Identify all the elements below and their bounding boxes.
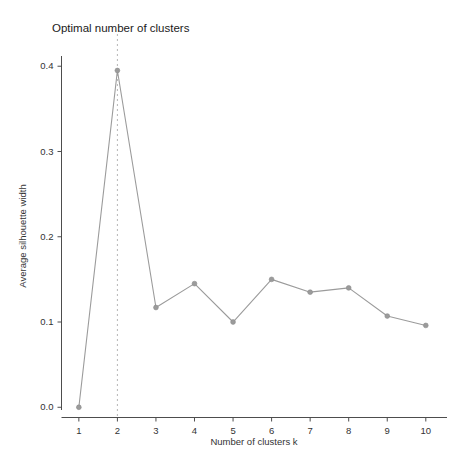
- y-tick-label: 0.2: [40, 231, 53, 242]
- x-tick-label: 7: [307, 425, 312, 436]
- x-tick-label: 4: [192, 425, 197, 436]
- silhouette-line-chart: Optimal number of clusters 0.00.10.20.30…: [0, 0, 464, 465]
- y-tick-label: 0.0: [40, 401, 53, 412]
- x-tick-label: 2: [115, 425, 120, 436]
- x-tick-label: 5: [230, 425, 235, 436]
- x-axis-label: Number of clusters k: [210, 436, 297, 447]
- data-point-marker: [231, 320, 236, 325]
- chart-root: Optimal number of clusters 0.00.10.20.30…: [0, 0, 464, 465]
- data-point-marker: [115, 68, 120, 73]
- y-tick-label: 0.4: [40, 60, 53, 71]
- y-axis-label: Average silhouette width: [17, 184, 28, 287]
- y-tick-label: 0.1: [40, 316, 53, 327]
- page-title: Optimal number of clusters: [52, 22, 190, 34]
- data-point-marker: [423, 323, 428, 328]
- chart-background: [0, 0, 464, 465]
- data-point-marker: [76, 405, 81, 410]
- x-tick-label: 10: [421, 425, 432, 436]
- data-point-marker: [385, 314, 390, 319]
- data-point-marker: [346, 286, 351, 291]
- data-point-marker: [308, 290, 313, 295]
- data-point-marker: [154, 305, 159, 310]
- data-point-marker: [269, 277, 274, 282]
- x-tick-label: 9: [385, 425, 390, 436]
- x-tick-label: 8: [346, 425, 351, 436]
- data-point-marker: [192, 281, 197, 286]
- x-tick-label: 3: [153, 425, 158, 436]
- x-tick-label: 6: [269, 425, 274, 436]
- y-tick-label: 0.3: [40, 146, 53, 157]
- x-tick-label: 1: [76, 425, 81, 436]
